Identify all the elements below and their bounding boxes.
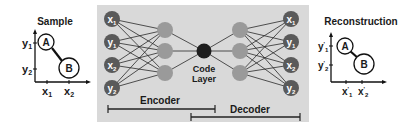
network-panel: x1 y1 x2 y2 Code Layer x1 xyxy=(97,5,309,122)
svg-text:B: B xyxy=(65,63,72,74)
svg-text:A: A xyxy=(341,41,348,52)
svg-text:B: B xyxy=(360,59,367,70)
y-axis-arrow-icon xyxy=(33,29,37,34)
sample-x2-label: x2 xyxy=(64,85,74,98)
hidden-node xyxy=(157,22,173,38)
sample-title: Sample xyxy=(37,16,73,27)
sample-plot: Sample y1 y2 x1 x2 A B xyxy=(22,16,91,98)
decoder-hidden-layer xyxy=(232,22,248,81)
autoencoder-diagram: Sample y1 y2 x1 x2 A B xyxy=(0,0,415,127)
x-axis-arrow-icon xyxy=(86,80,91,84)
hidden-node xyxy=(157,43,173,59)
sample-y2-label: y2 xyxy=(22,63,32,76)
recon-x1-label: x'1 xyxy=(342,86,353,98)
decoder-label: Decoder xyxy=(230,104,270,115)
reconstruction-plot: Reconstruction y'1 y'2 x'1 x'2 A B xyxy=(318,16,398,98)
recon-y1-label: y'1 xyxy=(318,41,329,53)
code-layer-label-2: Layer xyxy=(192,74,217,84)
sample-y1-label: y1 xyxy=(22,37,32,50)
hidden-node xyxy=(232,22,248,38)
reconstruction-title: Reconstruction xyxy=(324,16,397,27)
recon-y2-label: y'2 xyxy=(318,60,329,72)
svg-text:A: A xyxy=(42,37,49,48)
x-axis-arrow-icon xyxy=(382,80,387,84)
hidden-node xyxy=(232,65,248,81)
hidden-node xyxy=(157,65,173,81)
y-axis-arrow-icon xyxy=(329,32,333,37)
recon-x2-label: x'2 xyxy=(358,86,369,98)
code-layer-label-1: Code xyxy=(193,64,216,74)
code-node xyxy=(197,44,212,59)
encoder-label: Encoder xyxy=(140,95,180,106)
hidden-node xyxy=(232,43,248,59)
encoder-hidden-layer xyxy=(157,22,173,81)
sample-x1-label: x1 xyxy=(42,85,52,98)
